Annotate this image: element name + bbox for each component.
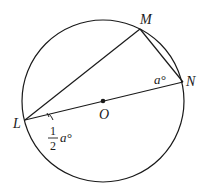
label-M: M xyxy=(139,12,153,27)
label-L: L xyxy=(12,116,21,131)
fraction-numerator: 1 xyxy=(50,124,56,138)
label-N: N xyxy=(185,74,196,89)
fraction-denominator: 2 xyxy=(50,139,56,153)
angle-marker-L xyxy=(49,114,53,120)
label-O: O xyxy=(99,107,109,122)
circle-diagram: M N L O a° 1 2 a° xyxy=(0,0,209,193)
angle-label-N: a° xyxy=(154,72,166,87)
center-point-O xyxy=(101,99,106,104)
angle-label-L: a° xyxy=(60,130,72,145)
